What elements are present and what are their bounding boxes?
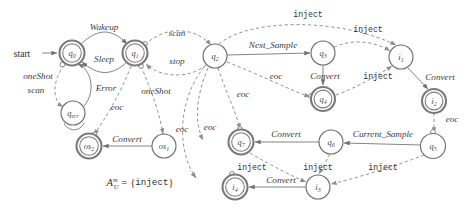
- edge-qerr-q0-error: [78, 64, 91, 106]
- edge-label-next-sample: Next_Sample: [248, 40, 297, 50]
- node-q5[interactable]: q5: [421, 134, 446, 159]
- edge-label-convert-i1i2: Convert: [425, 72, 455, 82]
- node-q1[interactable]: q1: [123, 41, 148, 66]
- node-q7[interactable]: q7: [229, 130, 254, 155]
- edge-label-inject-q5i3: inject: [368, 163, 398, 172]
- node-qerr[interactable]: qerr: [61, 101, 85, 125]
- start-label: start: [14, 48, 31, 59]
- edge-label-eoc-q1os2: eoc: [111, 102, 124, 112]
- edge-label-scan-q1q2: scan: [169, 28, 186, 38]
- formula-lhs-sup: m: [113, 175, 118, 182]
- edge-label-inject-q7i3: inject: [237, 163, 267, 172]
- edge-label-error: Error: [95, 83, 117, 93]
- edge-q0-qerr-oneshot: [55, 65, 64, 107]
- node-os2[interactable]: os2: [77, 134, 102, 159]
- edge-label-current-sample: Current_Sample: [353, 129, 413, 139]
- edge-label-eoc-q2q7-alt: eoc: [237, 89, 250, 99]
- edge-q1-os1-oneshot: [141, 66, 163, 134]
- formula-equals: =: [121, 177, 127, 188]
- edge-q4-i1-inject: [336, 66, 392, 95]
- edge-label-eoc-q2q4: eoc: [270, 71, 283, 81]
- formula-alphabet: AmU={inject}: [106, 175, 174, 189]
- edge-label-convert-i3i4: Convert: [266, 175, 296, 185]
- edge-label-oneshot-q0: oneShot: [23, 71, 53, 81]
- edge-label-convert-q6q7: Convert: [271, 129, 301, 139]
- edge-q0-q1-wakeup: [81, 32, 127, 44]
- edge-label-oneshot-q1: oneShot: [141, 86, 171, 96]
- edge-label-inject-q2i1: inject: [293, 10, 323, 19]
- formula-lhs-sub: U: [114, 182, 120, 189]
- node-q4[interactable]: q4: [311, 87, 335, 111]
- edge-label-inject-q4i1: inject: [363, 72, 393, 81]
- edge-label-convert-os: Convert: [112, 134, 142, 144]
- edge-label-eoc-q2i4: eoc: [176, 124, 189, 134]
- edge-label-stop: stop: [169, 56, 185, 66]
- edge-label-inject-q6i3: inject: [303, 163, 333, 172]
- edge-label-scan-q0: scan: [28, 85, 45, 95]
- edge-label-sleep: Sleep: [94, 54, 114, 64]
- edge-q2-q3-nextsample: [227, 53, 310, 55]
- node-i4[interactable]: i4: [223, 175, 248, 200]
- edge-q1-os2-eoc: [94, 66, 131, 135]
- edge-label-wakeup: Wakeup: [90, 22, 119, 32]
- node-q0[interactable]: q0: [60, 41, 85, 66]
- node-i1[interactable]: i1: [389, 45, 413, 69]
- edge-label-eoc-q2q7: eoc: [204, 122, 217, 132]
- edge-q3-i1-inject: [334, 42, 390, 51]
- edge-label-convert-q3q4: Convert: [310, 71, 340, 81]
- formula-member: inject: [135, 177, 168, 188]
- node-os1[interactable]: os1: [152, 134, 176, 158]
- automaton-diagram: Wakeup Sleep scan stop oneShot scan Erro…: [0, 0, 472, 218]
- node-i3[interactable]: i3: [306, 175, 330, 199]
- node-i2[interactable]: i2: [422, 89, 446, 113]
- node-q2[interactable]: q2: [203, 44, 227, 68]
- edge-label-eoc-i2q5: eoc: [446, 114, 459, 124]
- node-q6[interactable]: q6: [319, 130, 343, 154]
- edge-label-inject-q3i1: inject: [353, 25, 383, 34]
- fsm-canvas: Wakeup Sleep scan stop oneShot scan Erro…: [0, 0, 472, 218]
- edge-q2-i4-eoc: [183, 67, 204, 178]
- node-q3[interactable]: q3: [311, 41, 335, 65]
- formula-close-brace: }: [168, 177, 173, 188]
- edge-q5-q6-currentsample: [344, 143, 421, 145]
